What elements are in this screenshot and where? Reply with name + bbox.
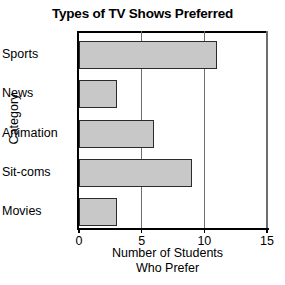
bar-sit-coms — [79, 159, 192, 187]
category-label-sports: Sports — [2, 47, 76, 61]
plot-area: 051015 — [79, 31, 267, 228]
bar-movies — [79, 198, 117, 226]
x-axis-title-line2: Who Prefer — [60, 261, 275, 276]
x-axis-title-line1: Number of Students — [60, 246, 275, 261]
category-label-sit-coms: Sit-coms — [2, 165, 76, 179]
plot-top-border — [79, 31, 267, 33]
x-axis-title: Number of Students Who Prefer — [60, 246, 275, 276]
category-label-news: News — [2, 86, 76, 100]
category-label-group: SportsNewsAnimationSit-comsMovies — [0, 31, 76, 228]
x-tick-0 — [78, 228, 80, 233]
bar-chart: Types of TV Shows Preferred Category Spo… — [0, 0, 285, 285]
x-tick-10 — [204, 228, 206, 233]
category-label-movies: Movies — [2, 204, 76, 218]
chart-title: Types of TV Shows Preferred — [0, 6, 285, 21]
category-label-animation: Animation — [2, 126, 76, 140]
x-tick-15 — [266, 228, 268, 233]
bar-sports — [79, 41, 217, 69]
bar-animation — [79, 120, 154, 148]
bar-news — [79, 80, 117, 108]
x-axis-line — [77, 228, 269, 230]
gridline-15 — [266, 31, 268, 228]
x-tick-5 — [141, 228, 143, 233]
